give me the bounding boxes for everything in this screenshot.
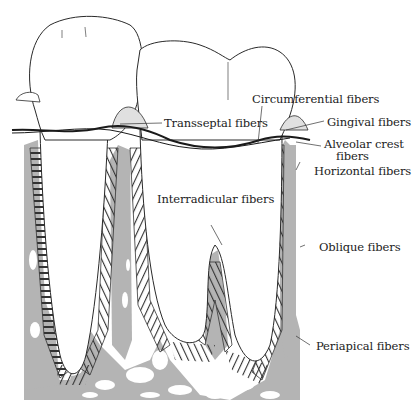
label-circumferential-fibers: Circumferential fibers (252, 93, 379, 106)
label-periapical-fibers: Periapical fibers (316, 340, 410, 353)
label-horizontal-fibers: Horizontal fibers (314, 165, 411, 178)
label-gingival-fibers: Gingival fibers (327, 116, 411, 129)
label-oblique-fibers: Oblique fibers (319, 241, 400, 254)
label-alveolar-crest-fibers-line2: fibers (336, 150, 369, 163)
label-transseptal-fibers: Transseptal fibers (164, 117, 268, 130)
label-interradicular-fibers: Interradicular fibers (157, 193, 274, 206)
